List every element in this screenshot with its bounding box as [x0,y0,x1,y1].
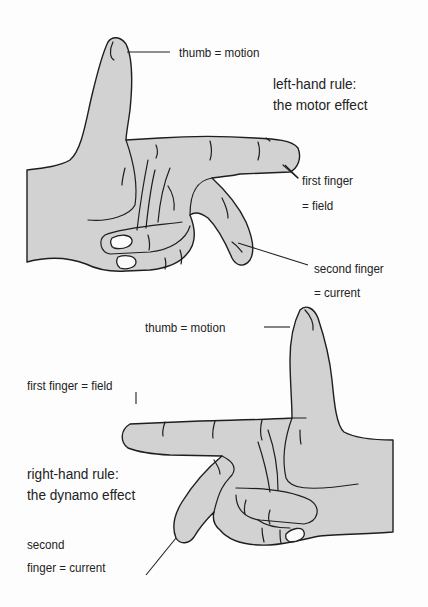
right-thumb-label: thumb = motion [145,319,225,336]
left-second-finger-label-line2: = current [314,284,360,301]
left-hand-title-line2: the motor effect [273,95,368,114]
hands-illustration [0,0,428,607]
left-second-finger-label-line1: second finger [314,260,384,277]
left-hand-title-line1: left-hand rule: [273,74,356,93]
left-hand-illustration [27,38,300,272]
right-first-finger-label: first finger = field [27,377,113,394]
hand-rules-diagram: thumb = motion left-hand rule: the motor… [0,0,428,607]
left-first-finger-label-line1: first finger [302,172,353,189]
left-first-finger-label-line2: = field [302,197,333,214]
right-hand-illustration [122,307,393,575]
right-second-finger-label-line1: second [27,536,64,553]
right-second-finger-label-line2: finger = current [27,559,105,576]
right-hand-title-line2: the dynamo effect [27,485,135,504]
left-thumb-label: thumb = motion [179,44,259,61]
right-hand-title-line1: right-hand rule: [27,464,119,483]
